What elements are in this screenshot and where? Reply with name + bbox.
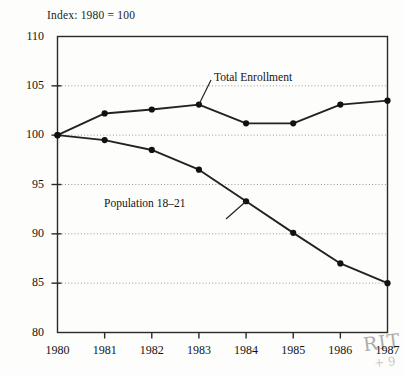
- y-axis-label: 90: [18, 226, 44, 241]
- y-axis-label: 100: [18, 127, 44, 142]
- x-axis-label: 1985: [272, 343, 314, 358]
- data-point: [102, 110, 108, 116]
- data-point: [149, 106, 155, 112]
- x-axis-label: 1980: [37, 343, 79, 358]
- x-axis-label: 1983: [178, 343, 220, 358]
- data-point: [384, 98, 390, 104]
- leader-line: [226, 201, 246, 219]
- x-axis-label: 1981: [84, 343, 126, 358]
- series-line-population-18-21: [58, 135, 388, 283]
- data-point: [196, 101, 202, 107]
- series-label-total-enrollment: Total Enrollment: [214, 71, 292, 83]
- x-axis-label: 1982: [131, 343, 173, 358]
- data-point: [384, 280, 390, 286]
- series-markers: [54, 98, 390, 287]
- data-point: [243, 120, 249, 126]
- data-point: [337, 101, 343, 107]
- y-axis-label: 80: [18, 325, 44, 340]
- x-axis-label: 1986: [319, 343, 361, 358]
- data-point: [54, 132, 60, 138]
- chart-figure: Index: 1980 = 100 Total Enrollment Popul…: [0, 0, 404, 375]
- y-axis-label: 105: [18, 78, 44, 93]
- data-point: [337, 260, 343, 266]
- x-axis-ticks: [105, 333, 341, 339]
- y-axis-ticks: [52, 86, 62, 283]
- y-axis-label: 110: [18, 29, 44, 44]
- x-axis-label: 1984: [225, 343, 267, 358]
- data-point: [290, 230, 296, 236]
- data-point: [290, 120, 296, 126]
- series-lines: [58, 101, 388, 284]
- data-point: [196, 167, 202, 173]
- y-axis-label: 95: [18, 177, 44, 192]
- series-label-population-18-21: Population 18–21: [104, 197, 185, 209]
- annotation-leader-lines: [199, 80, 246, 219]
- data-point: [149, 147, 155, 153]
- x-axis-label: 1987: [367, 343, 404, 358]
- y-axis-label: 85: [18, 275, 44, 290]
- data-point: [102, 137, 108, 143]
- leader-line: [199, 80, 211, 105]
- line-chart: [0, 0, 404, 375]
